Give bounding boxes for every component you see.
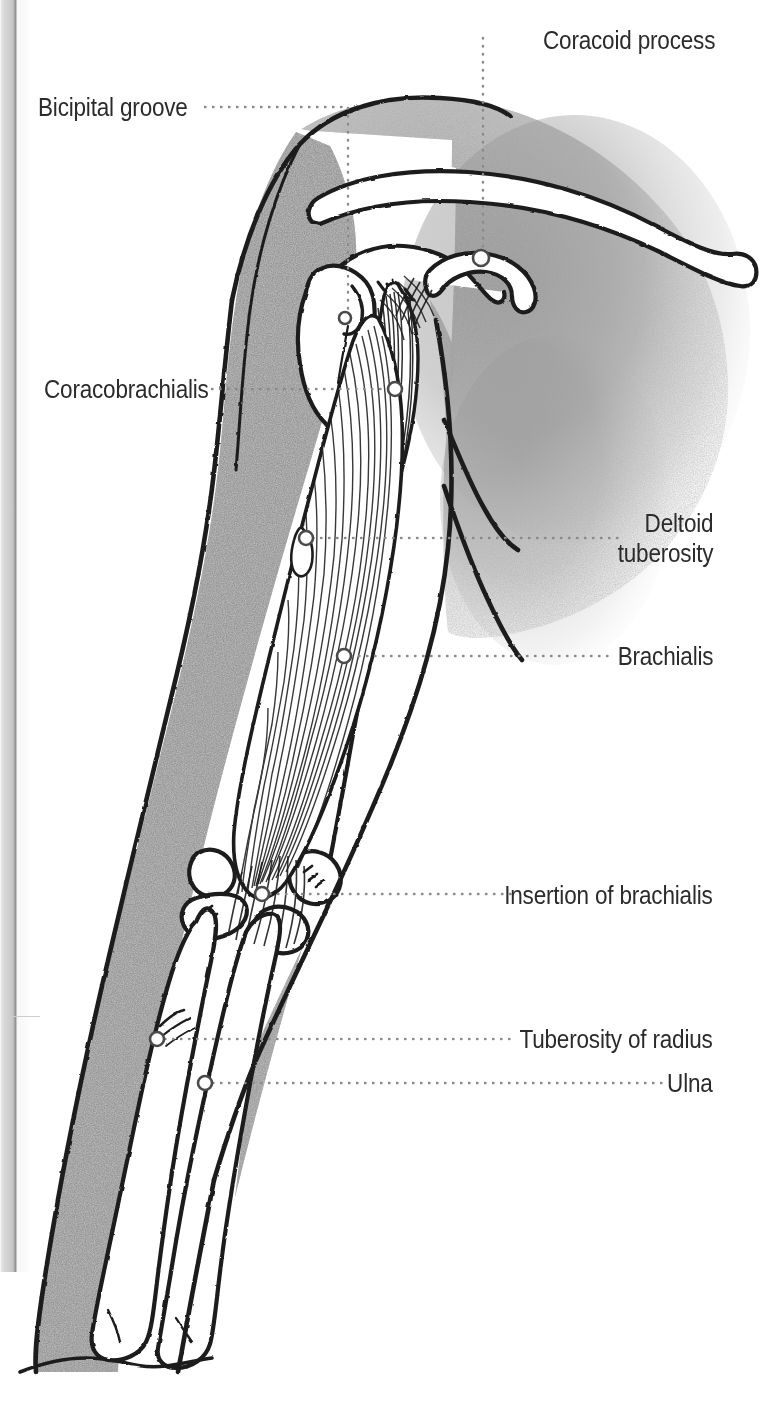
label-ulna: Ulna	[667, 1068, 713, 1098]
marker-coracoid-process	[473, 250, 489, 266]
marker-bicipital-groove	[339, 312, 351, 324]
label-bicipital-groove: Bicipital groove	[38, 92, 188, 122]
label-coracobrachialis-line-1: Coracobrachialis	[44, 375, 209, 403]
label-coracoid-process-line-1: Coracoid process	[543, 26, 715, 54]
label-tuberosity-of-radius-line-1: Tuberosity of radius	[520, 1025, 713, 1053]
label-bicipital-groove-line-1: Bicipital groove	[38, 93, 188, 121]
label-deltoid-tuberosity-line-2: tuberosity	[617, 538, 713, 568]
label-deltoid-tuberosity: Deltoidtuberosity	[617, 508, 713, 568]
medial-epicondyle	[189, 850, 235, 897]
marker-tuberosity-of-radius	[150, 1032, 164, 1046]
label-insertion-of-brachialis-line-1: Insertion of brachialis	[505, 881, 713, 909]
marker-ulna	[198, 1076, 212, 1090]
marker-coracobrachialis	[388, 382, 402, 396]
label-coracobrachialis: Coracobrachialis	[44, 374, 209, 404]
label-ulna-line-1: Ulna	[667, 1069, 713, 1097]
marker-deltoid-tuberosity	[299, 531, 313, 545]
label-deltoid-tuberosity-line-1: Deltoid	[644, 509, 713, 537]
marker-brachialis	[337, 649, 351, 663]
marker-insertion-of-brachialis	[255, 887, 269, 901]
label-coracoid-process: Coracoid process	[543, 25, 715, 55]
label-brachialis-line-1: Brachialis	[617, 642, 713, 670]
label-insertion-of-brachialis: Insertion of brachialis	[505, 880, 713, 910]
label-brachialis: Brachialis	[617, 641, 713, 671]
anatomy-illustration	[0, 0, 761, 1422]
label-tuberosity-of-radius: Tuberosity of radius	[520, 1024, 713, 1054]
